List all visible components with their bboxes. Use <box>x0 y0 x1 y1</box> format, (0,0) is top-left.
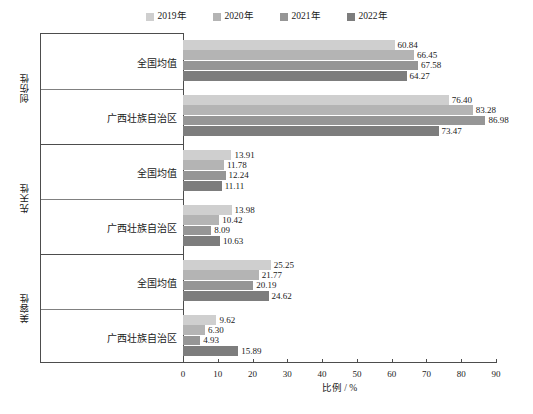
y-axis-line <box>183 33 184 363</box>
x-axis-title: 比例 / % <box>183 380 496 394</box>
legend-label: 2022年 <box>359 12 388 22</box>
legend-entry: 2020年 <box>213 12 254 22</box>
bar-value-label: 15.89 <box>241 346 261 356</box>
bar <box>183 105 473 115</box>
bar <box>183 236 220 246</box>
x-axis-tick <box>253 359 254 363</box>
bar-value-label: 25.25 <box>274 260 294 270</box>
x-axis-tick-label: 70 <box>422 369 431 379</box>
x-axis-tick <box>357 359 358 363</box>
category-label: 全国均值 <box>137 54 177 69</box>
bar-value-label: 86.98 <box>488 115 508 125</box>
bar <box>183 95 449 105</box>
panel-title: 先天性 <box>17 183 33 213</box>
bar <box>183 126 439 136</box>
legend-label: 2021年 <box>292 12 321 22</box>
category-axis-column: 全国均值广西壮族自治区全国均值广西壮族自治区全国均值广西壮族自治区 <box>40 33 183 363</box>
panel-title: 美容性 <box>17 293 33 323</box>
bar <box>183 61 418 71</box>
bar-value-label: 24.62 <box>272 291 292 301</box>
bar <box>183 160 224 170</box>
bar <box>183 116 485 126</box>
bar <box>183 291 269 301</box>
x-axis-tick-label: 80 <box>457 369 466 379</box>
bar <box>183 181 222 191</box>
panel-title: 创伤性 <box>17 73 33 103</box>
square-swatch-icon <box>146 13 154 21</box>
bar-value-label: 76.40 <box>452 95 472 105</box>
bar <box>183 226 211 236</box>
bar <box>183 346 238 356</box>
bar-value-label: 11.11 <box>225 181 245 191</box>
chart-figure: 2019年2020年2021年2022年 全国均值广西壮族自治区全国均值广西壮族… <box>0 0 533 414</box>
bar-value-label: 66.45 <box>417 50 437 60</box>
bar-value-label: 6.30 <box>208 325 224 335</box>
bar <box>183 315 216 325</box>
legend-entry: 2021年 <box>280 12 321 22</box>
square-swatch-icon <box>280 13 288 21</box>
bar-value-label: 21.77 <box>262 270 282 280</box>
plot-area: 比例 / % 010203040506070809060.8466.4567.5… <box>183 33 496 363</box>
bar-value-label: 20.19 <box>256 280 276 290</box>
bar-value-label: 13.91 <box>234 150 254 160</box>
bar-value-label: 83.28 <box>476 105 496 115</box>
x-axis-tick-label: 50 <box>352 369 361 379</box>
x-axis-tick <box>426 359 427 363</box>
bar <box>183 260 271 270</box>
x-axis-tick <box>461 359 462 363</box>
x-axis-tick-label: 10 <box>213 369 222 379</box>
bar <box>183 171 226 181</box>
x-axis-tick <box>218 359 219 363</box>
square-swatch-icon <box>347 13 355 21</box>
bar <box>183 50 414 60</box>
x-axis-tick-label: 20 <box>248 369 257 379</box>
bar-value-label: 67.58 <box>421 60 441 70</box>
bar-value-label: 12.24 <box>229 170 249 180</box>
bar <box>183 325 205 335</box>
bar <box>183 281 253 291</box>
bar-value-label: 64.27 <box>410 71 430 81</box>
bar <box>183 215 219 225</box>
legend-entry: 2019年 <box>146 12 187 22</box>
bar-value-label: 73.47 <box>442 126 462 136</box>
bar-value-label: 60.84 <box>398 40 418 50</box>
category-label: 广西壮族自治区 <box>107 219 177 234</box>
x-axis-tick <box>322 359 323 363</box>
x-axis-line <box>183 362 496 363</box>
bar-value-label: 10.63 <box>223 236 243 246</box>
bar-value-label: 11.78 <box>227 160 247 170</box>
x-axis-tick-label: 90 <box>492 369 501 379</box>
x-axis-tick <box>287 359 288 363</box>
category-divider <box>41 199 184 200</box>
bar-value-label: 4.93 <box>203 335 219 345</box>
category-divider <box>41 89 184 90</box>
category-divider <box>41 309 184 310</box>
legend-label: 2019年 <box>158 12 187 22</box>
bar <box>183 150 231 160</box>
x-axis-tick-label: 40 <box>318 369 327 379</box>
bar-value-label: 9.62 <box>219 315 235 325</box>
x-axis-tick-label: 30 <box>283 369 292 379</box>
panel-divider <box>41 144 184 145</box>
x-axis-tick <box>183 359 184 363</box>
legend-label: 2020年 <box>225 12 254 22</box>
bar-value-label: 8.09 <box>214 225 230 235</box>
bar-value-label: 10.42 <box>222 215 242 225</box>
x-axis-tick <box>496 359 497 363</box>
panel-divider <box>41 254 184 255</box>
category-label: 全国均值 <box>137 164 177 179</box>
bar <box>183 40 395 50</box>
x-axis-tick-label: 60 <box>387 369 396 379</box>
x-axis-tick-label: 0 <box>181 369 186 379</box>
category-label: 广西壮族自治区 <box>107 109 177 124</box>
bar <box>183 205 232 215</box>
square-swatch-icon <box>213 13 221 21</box>
bar-value-label: 13.98 <box>235 205 255 215</box>
x-axis-tick <box>392 359 393 363</box>
bar <box>183 336 200 346</box>
category-label: 全国均值 <box>137 274 177 289</box>
chart-legend: 2019年2020年2021年2022年 <box>0 12 533 22</box>
bar <box>183 71 407 81</box>
legend-entry: 2022年 <box>347 12 388 22</box>
category-label: 广西壮族自治区 <box>107 329 177 344</box>
